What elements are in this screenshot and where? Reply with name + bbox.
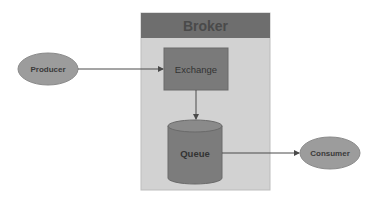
producer-node: Producer [18,53,78,85]
exchange-node: Exchange [164,48,228,90]
exchange-label: Exchange [175,64,217,75]
diagram-canvas: Broker Exchange Queue Producer Consumer [0,0,377,200]
producer-label: Producer [30,65,65,74]
broker-title: Broker [183,18,229,34]
queue-node: Queue [168,120,222,184]
consumer-label: Consumer [310,149,350,158]
consumer-node: Consumer [300,137,360,169]
queue-label: Queue [180,148,210,159]
